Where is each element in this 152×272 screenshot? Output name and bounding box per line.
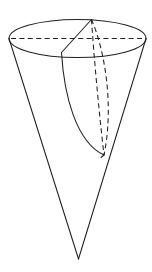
figure-canvas: Cone with inscribed wedge Line drawing o… [0, 0, 152, 272]
diagram-background [0, 0, 152, 272]
cone-with-wedge-diagram: Cone with inscribed wedge Line drawing o… [0, 0, 152, 272]
